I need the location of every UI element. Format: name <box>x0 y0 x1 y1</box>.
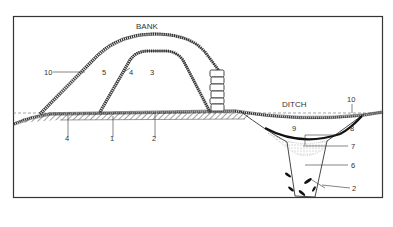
label-8: 8 <box>350 124 354 133</box>
inner-bank-turf-line <box>99 51 211 113</box>
label-4-ground: 4 <box>65 134 69 143</box>
label-5: 5 <box>102 68 106 77</box>
ditch-stones <box>284 172 316 197</box>
ditch-title: DITCH <box>282 100 307 109</box>
ditch-guide <box>240 111 293 198</box>
stone-revetment-wall <box>210 70 224 111</box>
label-6: 6 <box>351 161 355 170</box>
dark-turf-layer <box>265 116 362 139</box>
bank-title: BANK <box>136 22 158 31</box>
label-4-inner: 4 <box>129 68 133 77</box>
label-1: 1 <box>110 134 114 143</box>
label-10-bank: 10 <box>44 68 52 77</box>
diagram-canvas: BANK DITCH 10 5 4 3 4 1 2 10 9 8 7 6 2 <box>0 0 393 227</box>
label-10-ditch: 10 <box>347 95 355 104</box>
label-7: 7 <box>351 142 355 151</box>
leader-lines <box>53 68 352 188</box>
label-2-stones: 2 <box>352 184 356 193</box>
label-2-soil: 2 <box>152 134 156 143</box>
label-3: 3 <box>150 68 154 77</box>
label-9: 9 <box>292 124 296 133</box>
bank-ditch-section-svg: BANK DITCH 10 5 4 3 4 1 2 10 9 8 7 6 2 <box>0 0 393 227</box>
